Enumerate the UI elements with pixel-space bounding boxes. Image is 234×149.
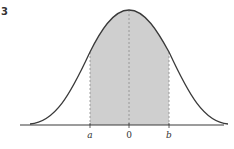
- shaded-area: [90, 10, 169, 125]
- label-b: b: [166, 130, 172, 140]
- label-zero: 0: [126, 130, 132, 140]
- label-a: a: [87, 130, 92, 140]
- normal-curve-diagram: a 0 b: [0, 0, 234, 149]
